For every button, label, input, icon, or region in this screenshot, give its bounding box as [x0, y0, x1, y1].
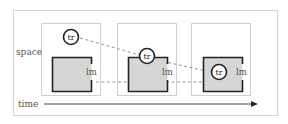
tr-label-1: tr — [67, 33, 74, 42]
lm-label-1: lm — [86, 67, 97, 77]
time-space-diagram: space time tr tr tr lm lm lm — [0, 0, 288, 124]
tr-label-2: tr — [143, 52, 150, 61]
space-axis-label: space — [16, 47, 42, 57]
diagram-svg: space time tr tr tr lm lm lm — [0, 0, 288, 124]
lm-label-3: lm — [236, 67, 247, 77]
tr-label-3: tr — [215, 68, 222, 77]
time-axis-label: time — [18, 99, 38, 109]
lm-label-2: lm — [162, 67, 173, 77]
